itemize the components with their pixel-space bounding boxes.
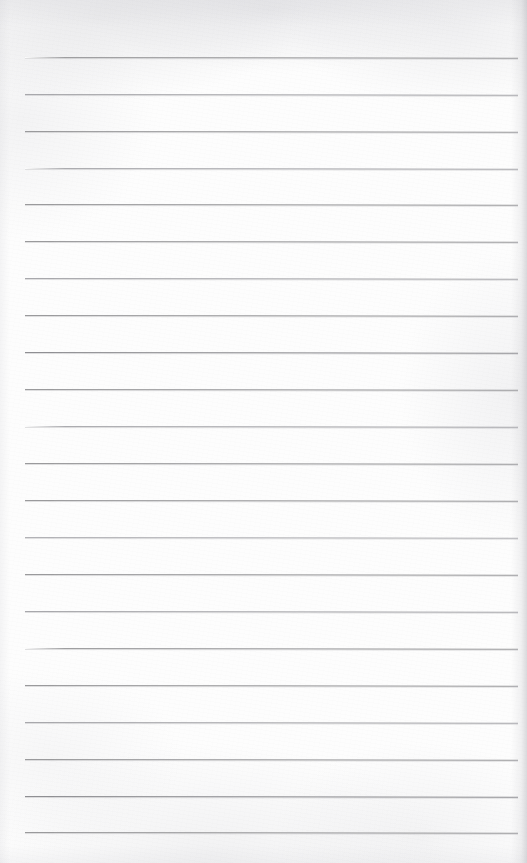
- scanned-page: [0, 0, 527, 863]
- ruled-lines-group: [0, 0, 527, 863]
- rule-line: [25, 94, 518, 96]
- rule-line: [25, 352, 518, 354]
- rule-line: [25, 426, 518, 428]
- rule-line: [25, 648, 518, 650]
- rule-line: [25, 611, 518, 613]
- rule-line: [25, 463, 518, 465]
- rule-line: [25, 315, 518, 317]
- rule-line: [25, 796, 518, 798]
- rule-line: [25, 168, 518, 170]
- rule-line: [25, 131, 518, 133]
- rule-line: [25, 278, 518, 280]
- rule-line: [25, 537, 518, 539]
- rule-line: [25, 685, 518, 687]
- rule-line: [25, 759, 518, 761]
- rule-line: [25, 57, 518, 59]
- rule-line: [25, 832, 518, 834]
- rule-line: [25, 722, 518, 724]
- rule-line: [25, 500, 518, 502]
- rule-line: [25, 204, 518, 206]
- rule-line: [25, 389, 518, 391]
- rule-line: [25, 241, 518, 243]
- rule-line: [25, 574, 518, 576]
